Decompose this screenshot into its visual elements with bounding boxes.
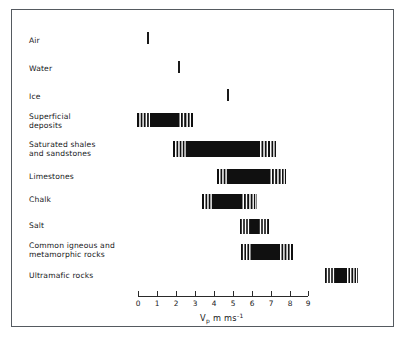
row-label-limestones: Limestones (29, 172, 74, 181)
bar-stripes (325, 268, 358, 283)
x-axis-tick-6 (252, 291, 253, 296)
row-label-common-igneous-and-metamorphic-rocks: Common igneous and metamorphic rocks (29, 241, 115, 259)
row-label-air: Air (29, 36, 40, 45)
row-label-ultramafic-rocks: Ultramafic rocks (29, 271, 93, 280)
x-axis-label-5: 5 (226, 299, 240, 308)
x-axis-label-7: 7 (264, 299, 278, 308)
range-bar-saturated-shales-and-sandstones (173, 141, 276, 157)
x-axis-title-units: m ms (210, 313, 237, 323)
x-axis-label-8: 8 (283, 299, 297, 308)
x-axis-label-4: 4 (207, 299, 221, 308)
row-label-chalk: Chalk (29, 195, 51, 204)
figure-canvas: Air Water Ice Superficial deposits Satur… (0, 0, 407, 339)
range-bar-ultramafic-rocks (325, 268, 358, 283)
x-axis-tick-1 (157, 291, 158, 296)
bar-stripes (202, 194, 257, 209)
bar-stripes (137, 113, 193, 127)
x-axis-label-6: 6 (245, 299, 259, 308)
row-label-water: Water (29, 64, 52, 73)
plot-area: Air Water Ice Superficial deposits Satur… (0, 0, 407, 339)
bar-stripes (173, 141, 276, 157)
row-label-superficial-deposits: Superficial deposits (29, 112, 71, 130)
range-bar-limestones (217, 169, 286, 184)
row-label-salt: Salt (29, 221, 44, 230)
bar-stripes (241, 244, 293, 260)
bar-stripes (240, 219, 269, 234)
value-mark-ice (227, 89, 229, 101)
x-axis-label-9: 9 (301, 299, 315, 308)
x-axis-tick-7 (271, 291, 272, 296)
row-label-saturated-shales-and-sandstones: Saturated shales and sandstones (29, 140, 95, 158)
x-axis-label-1: 1 (150, 299, 164, 308)
x-axis-tick-0 (138, 291, 139, 296)
range-bar-common-igneous-and-metamorphic-rocks (241, 244, 293, 260)
x-axis-tick-9 (308, 291, 309, 296)
x-axis-tick-3 (195, 291, 196, 296)
x-axis-label-2: 2 (169, 299, 183, 308)
range-bar-superficial-deposits (137, 113, 193, 127)
range-bar-salt (240, 219, 269, 234)
x-axis-tick-5 (233, 291, 234, 296)
x-axis-label-0: 0 (131, 299, 145, 308)
x-axis-tick-8 (290, 291, 291, 296)
x-axis-tick-2 (176, 291, 177, 296)
value-mark-air (147, 32, 149, 44)
bar-stripes (217, 169, 286, 184)
x-axis-line (138, 296, 308, 297)
x-axis-tick-4 (214, 291, 215, 296)
value-mark-water (178, 61, 180, 73)
row-label-ice: Ice (29, 92, 41, 101)
x-axis-title: Vp m ms-1 (200, 312, 244, 324)
x-axis-label-3: 3 (188, 299, 202, 308)
x-axis-title-superscript: -1 (237, 312, 244, 319)
range-bar-chalk (202, 194, 257, 209)
